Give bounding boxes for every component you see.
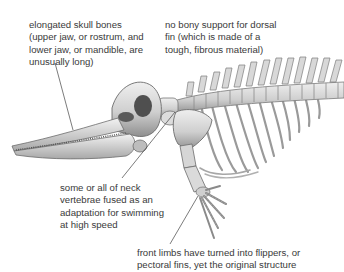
annotation-line: front limbs have turned into flippers, o… — [137, 247, 300, 259]
annotation-line: some or all of neck — [60, 182, 164, 194]
leader-line-skull — [55, 63, 73, 130]
annotation-line: fin (which is made of a — [165, 31, 276, 43]
ribcage — [200, 96, 320, 178]
annotation-line: at high speed — [60, 219, 164, 231]
annotation-skull: elongated skull bones (upper jaw, or ros… — [29, 19, 144, 69]
annotation-line: no bony support for dorsal — [165, 19, 276, 31]
annotation-line: tough, fibrous material) — [165, 44, 276, 56]
annotation-line: pectoral fins, yet the original structur… — [137, 259, 300, 271]
annotation-line: lower jaw, or mandible, are — [29, 44, 144, 56]
annotation-line: unusually long) — [29, 56, 144, 68]
annotation-dorsal-fin: no bony support for dorsal fin (which is… — [165, 19, 276, 56]
leader-line-flipper — [170, 196, 198, 244]
annotation-line: elongated skull bones — [29, 19, 144, 31]
annotation-line: vertebrae fused as an — [60, 194, 164, 206]
annotation-neck-vertebrae: some or all of neck vertebrae fused as a… — [60, 182, 164, 232]
annotation-flippers: front limbs have turned into flippers, o… — [137, 247, 300, 272]
skull — [12, 82, 161, 159]
annotation-line: (upper jaw, or rostrum, and — [29, 31, 144, 43]
annotation-line: adaptation for swimming — [60, 207, 164, 219]
diagram-canvas: elongated skull bones (upper jaw, or ros… — [0, 0, 344, 272]
